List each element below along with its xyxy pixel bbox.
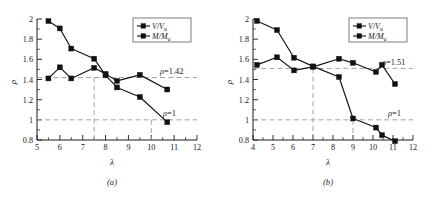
y-tick-labels-a: 0.8 1 1.2 1.4 1.6 1.8 2 <box>23 15 33 145</box>
x-tick-labels-a: 5 6 7 8 9 10 11 12 <box>35 143 201 152</box>
y-tick-label: 2 <box>245 15 249 24</box>
x-tick-label: 7 <box>81 143 85 152</box>
x-tick-label: 10 <box>369 143 377 152</box>
y-axis-ticks-b <box>253 19 258 140</box>
y-tick-label: 1.4 <box>239 76 249 85</box>
x-tick-label: 4 <box>251 143 255 152</box>
y-tick-labels-b: 0.8 1 1.2 1.4 1.6 1.8 2 <box>239 15 249 145</box>
annotation-rho-1: ρ=1 <box>387 109 401 118</box>
x-tick-label: 11 <box>389 143 397 152</box>
annotation-rho-1: ρ=1 <box>162 109 176 118</box>
y-tick-label: 1 <box>29 116 33 125</box>
legend-marker-v-vu <box>357 24 362 29</box>
x-tick-label: 8 <box>331 143 335 152</box>
panel-caption-b: (b) <box>323 177 333 187</box>
x-tick-label: 10 <box>147 143 155 152</box>
y-axis-title-a: ρ <box>8 79 18 85</box>
figure-container: 0.8 1 1.2 1.4 1.6 1.8 2 <box>0 0 432 198</box>
legend-a[interactable]: V/Vu M/Mu <box>133 18 191 42</box>
legend-marker-v-vu <box>141 24 146 29</box>
chart-svg-b: 0.8 1 1.2 1.4 1.6 1.8 2 <box>216 0 432 198</box>
annotation-rho-1-51: ρ=1.51 <box>381 58 405 67</box>
x-tick-label: 5 <box>271 143 275 152</box>
y-tick-label: 1.6 <box>239 55 249 64</box>
series-markers-m-mu-b <box>255 55 398 87</box>
y-tick-label: 2 <box>29 15 33 24</box>
y-tick-label: 1.4 <box>23 76 33 85</box>
y-tick-label: 1.8 <box>23 35 33 44</box>
x-tick-labels-b: 4 5 6 7 8 9 10 11 12 <box>251 143 417 152</box>
y-axis-title-b: ρ <box>224 79 234 85</box>
x-tick-label: 11 <box>170 143 178 152</box>
x-tick-label: 12 <box>409 143 417 152</box>
x-tick-label: 7 <box>311 143 315 152</box>
x-axis-ticks-b <box>253 135 413 140</box>
x-tick-label: 5 <box>35 143 39 152</box>
y-tick-label: 0.8 <box>239 136 249 145</box>
y-axis-ticks-a <box>37 19 42 140</box>
y-tick-label: 1.6 <box>23 55 33 64</box>
legend-b[interactable]: V/Vu M/Mu <box>349 18 407 42</box>
legend-marker-m-mu <box>141 34 146 39</box>
legend-marker-m-mu <box>357 34 362 39</box>
chart-svg-a: 0.8 1 1.2 1.4 1.6 1.8 2 <box>0 0 216 198</box>
chart-panel-b: 0.8 1 1.2 1.4 1.6 1.8 2 <box>216 0 432 198</box>
panel-caption-a: (a) <box>107 177 117 187</box>
y-tick-label: 1.2 <box>239 96 249 105</box>
x-tick-label: 9 <box>351 143 355 152</box>
y-tick-label: 0.8 <box>23 136 33 145</box>
x-axis-ticks-a <box>37 135 197 140</box>
x-tick-label: 12 <box>193 143 201 152</box>
x-axis-title-a: λ <box>109 157 114 167</box>
x-axis-title-b: λ <box>325 157 330 167</box>
y-tick-label: 1.8 <box>239 35 249 44</box>
y-tick-label: 1.2 <box>23 96 33 105</box>
x-tick-label: 8 <box>104 143 108 152</box>
annotation-rho-1-42: ρ=1.42 <box>159 67 183 76</box>
x-tick-label: 6 <box>291 143 295 152</box>
x-tick-label: 9 <box>126 143 130 152</box>
x-tick-label: 6 <box>58 143 62 152</box>
chart-panel-a: 0.8 1 1.2 1.4 1.6 1.8 2 <box>0 0 216 198</box>
y-tick-label: 1 <box>245 116 249 125</box>
